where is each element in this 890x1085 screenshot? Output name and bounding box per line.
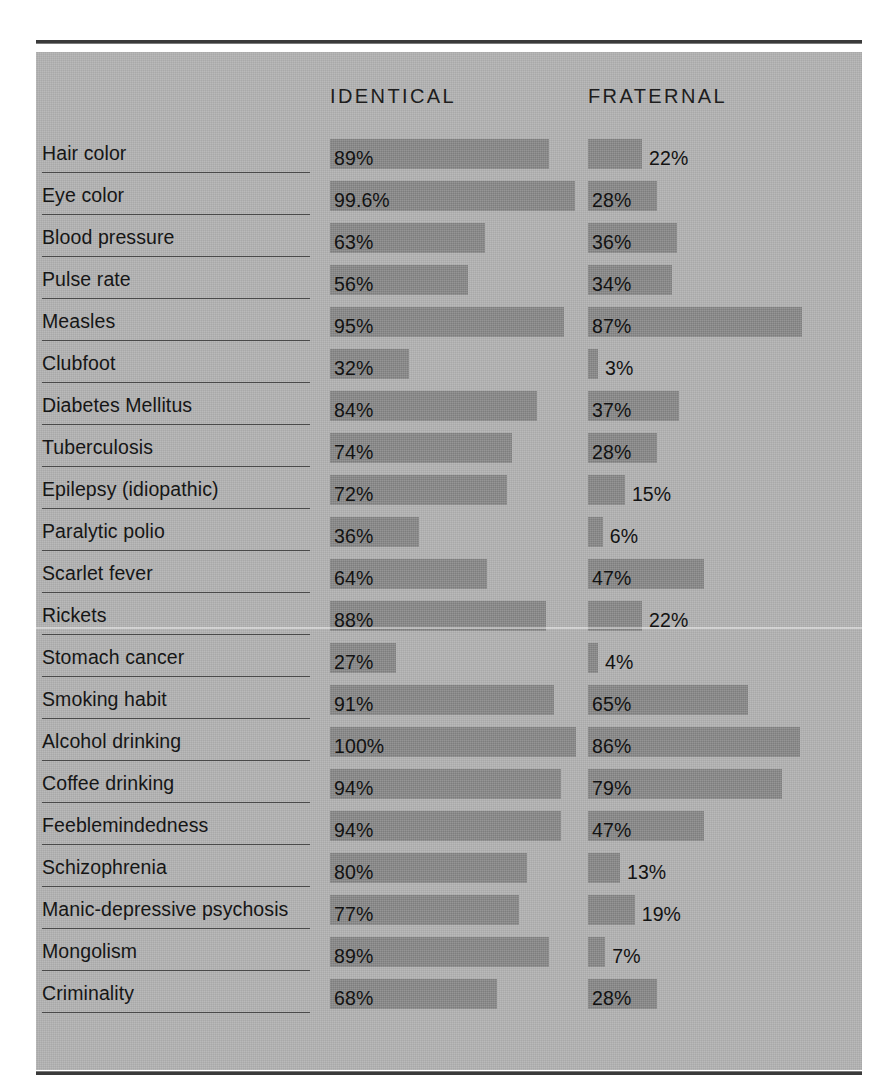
bar-fraternal: 6% (588, 517, 603, 547)
row-label: Schizophrenia (42, 856, 167, 879)
bar-value-label: 88% (334, 609, 373, 632)
bar-identical: 88% (330, 601, 546, 631)
chart-row: Scarlet fever64%47% (36, 556, 862, 598)
row-label: Stomach cancer (42, 646, 184, 669)
bar-value-label: 84% (334, 399, 373, 422)
bar-value-label: 22% (649, 147, 688, 170)
row-label: Alcohol drinking (42, 730, 181, 753)
bar-identical: 56% (330, 265, 468, 295)
bar-value-label: 4% (605, 651, 633, 674)
bar-value-label: 28% (592, 987, 631, 1010)
bar-value-label: 7% (612, 945, 640, 968)
row-underline (42, 718, 310, 719)
row-label: Clubfoot (42, 352, 115, 375)
chart-row: Pulse rate56%34% (36, 262, 862, 304)
bar-value-label: 77% (334, 903, 373, 926)
bar-value-label: 87% (592, 315, 631, 338)
row-underline (42, 928, 310, 929)
bar-value-label: 72% (334, 483, 373, 506)
row-underline (42, 172, 310, 173)
row-underline (42, 256, 310, 257)
twin-concordance-chart: IDENTICAL FRATERNAL Hair color89%22%Eye … (0, 0, 890, 1085)
bar-value-label: 94% (334, 819, 373, 842)
bar-value-label: 34% (592, 273, 631, 296)
bar-fraternal: 4% (588, 643, 598, 673)
bar-identical: 74% (330, 433, 512, 463)
bar-value-label: 74% (334, 441, 373, 464)
row-underline (42, 676, 310, 677)
bar-identical: 95% (330, 307, 564, 337)
bar-identical: 36% (330, 517, 419, 547)
row-label: Eye color (42, 184, 124, 207)
bar-value-label: 64% (334, 567, 373, 590)
row-underline (42, 592, 310, 593)
bar-value-label: 89% (334, 147, 373, 170)
bar-value-label: 94% (334, 777, 373, 800)
bar-value-label: 99.6% (334, 189, 390, 212)
bar-fraternal: 37% (588, 391, 679, 421)
chart-row: Coffee drinking94%79% (36, 766, 862, 808)
row-label: Epilepsy (idiopathic) (42, 478, 219, 501)
bar-value-label: 63% (334, 231, 373, 254)
row-underline (42, 466, 310, 467)
chart-row: Diabetes Mellitus84%37% (36, 388, 862, 430)
row-underline (42, 844, 310, 845)
bar-value-label: 19% (642, 903, 681, 926)
row-underline (42, 214, 310, 215)
bar-fraternal: 36% (588, 223, 677, 253)
bar-value-label: 91% (334, 693, 373, 716)
chart-row: Rickets88%22% (36, 598, 862, 640)
bar-value-label: 95% (334, 315, 373, 338)
bar-fraternal: 28% (588, 433, 657, 463)
row-underline (42, 970, 310, 971)
row-label: Diabetes Mellitus (42, 394, 192, 417)
bar-value-label: 47% (592, 819, 631, 842)
chart-row: Epilepsy (idiopathic)72%15% (36, 472, 862, 514)
chart-row: Measles95%87% (36, 304, 862, 346)
row-underline (42, 886, 310, 887)
row-underline (42, 550, 310, 551)
row-underline (42, 802, 310, 803)
bar-fraternal: 22% (588, 601, 642, 631)
chart-row: Mongolism89%7% (36, 934, 862, 976)
bar-value-label: 6% (610, 525, 638, 548)
bar-fraternal: 13% (588, 853, 620, 883)
bar-fraternal: 86% (588, 727, 800, 757)
row-label: Smoking habit (42, 688, 167, 711)
row-underline (42, 760, 310, 761)
bar-value-label: 13% (627, 861, 666, 884)
bar-identical: 89% (330, 937, 549, 967)
bar-fraternal: 15% (588, 475, 625, 505)
bar-fraternal: 65% (588, 685, 748, 715)
bar-identical: 77% (330, 895, 519, 925)
row-label: Criminality (42, 982, 134, 1005)
row-underline (42, 424, 310, 425)
row-underline (42, 1012, 310, 1013)
chart-row: Paralytic polio36%6% (36, 514, 862, 556)
bar-fraternal: 79% (588, 769, 782, 799)
row-label: Measles (42, 310, 115, 333)
row-underline (42, 340, 310, 341)
bar-identical: 100% (330, 727, 576, 757)
row-underline (42, 508, 310, 509)
bar-value-label: 80% (334, 861, 373, 884)
row-label: Tuberculosis (42, 436, 153, 459)
bar-fraternal: 47% (588, 811, 704, 841)
chart-row: Criminality68%28% (36, 976, 862, 1018)
chart-row: Hair color89%22% (36, 136, 862, 178)
chart-row: Manic-depressive psychosis77%19% (36, 892, 862, 934)
bar-identical: 80% (330, 853, 527, 883)
bar-value-label: 15% (632, 483, 671, 506)
chart-row: Tuberculosis74%28% (36, 430, 862, 472)
row-label: Paralytic polio (42, 520, 165, 543)
bar-value-label: 28% (592, 189, 631, 212)
bottom-border-rule (36, 1072, 862, 1075)
bar-identical: 27% (330, 643, 396, 673)
row-label: Blood pressure (42, 226, 175, 249)
bar-value-label: 32% (334, 357, 373, 380)
chart-row: Blood pressure63%36% (36, 220, 862, 262)
bar-identical: 99.6% (330, 181, 575, 211)
column-header-fraternal: FRATERNAL (588, 85, 727, 108)
bar-value-label: 36% (334, 525, 373, 548)
bar-identical: 94% (330, 769, 561, 799)
